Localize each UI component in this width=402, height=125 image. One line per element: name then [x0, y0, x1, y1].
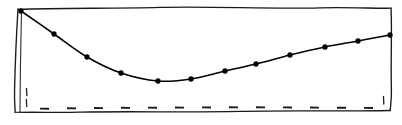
data-point-marker — [222, 68, 227, 73]
data-point-marker — [155, 78, 160, 83]
data-point-marker — [188, 76, 193, 81]
data-point-marker — [253, 61, 258, 66]
data-point-marker — [51, 31, 56, 36]
chart-background — [0, 0, 402, 125]
chart-canvas — [0, 0, 402, 125]
data-point-marker — [387, 32, 392, 37]
data-point-marker — [18, 8, 23, 13]
data-point-marker — [84, 54, 89, 59]
hand-drawn-line-chart — [0, 0, 402, 125]
data-point-marker — [287, 52, 292, 57]
data-point-marker — [118, 70, 123, 75]
data-point-marker — [322, 44, 327, 49]
data-point-marker — [355, 38, 360, 43]
